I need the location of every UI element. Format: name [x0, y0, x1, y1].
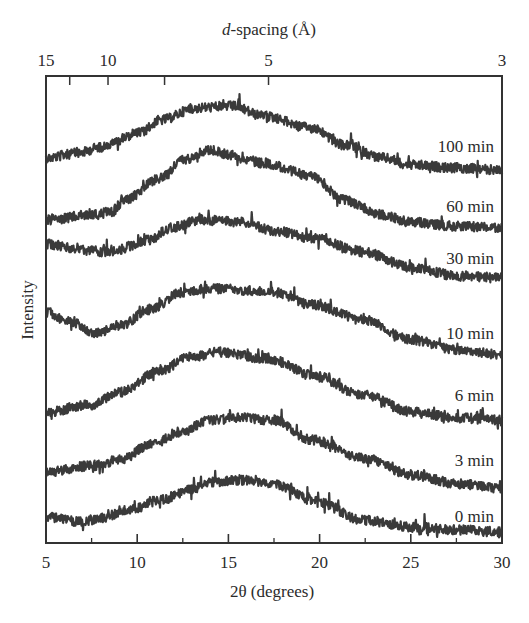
y-axis-title: Intensity	[18, 280, 37, 340]
trace-group	[46, 94, 502, 537]
series-labels: 100 min60 min30 min10 min6 min3 min0 min	[438, 137, 495, 526]
x-tick-label: 10	[129, 553, 146, 572]
trace-10-min	[46, 282, 502, 359]
top-axis-ticks	[70, 76, 269, 85]
x-tick-label: 30	[494, 553, 511, 572]
series-label: 10 min	[446, 324, 494, 343]
bottom-axis-ticks	[46, 534, 502, 543]
trace-60-min	[46, 146, 502, 232]
series-label: 3 min	[455, 451, 495, 470]
top-tick-label: 10	[100, 51, 117, 70]
series-label: 30 min	[446, 249, 494, 268]
top-axis-title: d-spacing (Å)	[222, 20, 316, 39]
series-label: 0 min	[455, 507, 495, 526]
trace-3-min	[46, 410, 502, 493]
x-tick-label: 15	[220, 553, 237, 572]
series-label: 100 min	[438, 137, 495, 156]
x-tick-label: 25	[402, 553, 419, 572]
x-axis-title: 2θ (degrees)	[230, 582, 314, 601]
x-tick-label: 20	[311, 553, 328, 572]
plot-frame	[46, 76, 502, 543]
top-tick-label: 5	[264, 51, 273, 70]
x-tick-label: 5	[42, 553, 51, 572]
xrd-stacked-chart: d-spacing (Å) 151053 100 min60 min30 min…	[0, 0, 529, 623]
top-axis-title-rest: -spacing (Å)	[231, 20, 316, 39]
top-tick-label: 15	[38, 51, 55, 70]
top-axis-tick-labels: 151053	[38, 51, 507, 70]
bottom-axis-tick-labels: 51015202530	[42, 553, 511, 572]
series-label: 60 min	[446, 197, 494, 216]
top-tick-label: 3	[498, 51, 507, 70]
series-label: 6 min	[455, 386, 495, 405]
